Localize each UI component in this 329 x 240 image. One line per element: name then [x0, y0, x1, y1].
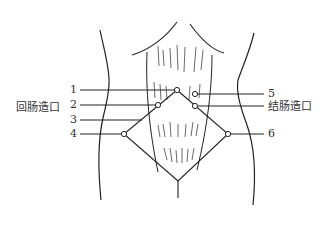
marker-label-1: 1	[70, 84, 77, 95]
marker-label-3: 3	[70, 114, 77, 125]
marker-point-4	[121, 131, 126, 136]
stoma-diamond	[124, 90, 228, 181]
torso-right-outline	[237, 33, 254, 205]
marker-point-5	[192, 91, 197, 96]
ileostomy-label: 回肠造口	[16, 102, 60, 113]
rectus-left-line	[147, 52, 158, 172]
marker-label-6: 6	[268, 128, 275, 139]
marker-point-2	[155, 102, 160, 107]
marker-label-2: 2	[70, 99, 77, 110]
marker-point-colostomy	[192, 103, 197, 108]
marker-point-1	[174, 87, 179, 92]
torso-left-outline	[99, 30, 109, 200]
marker-label-5: 5	[268, 88, 275, 99]
marker-point-6	[225, 131, 230, 136]
rib-cage-arch	[132, 22, 224, 55]
rectus-right-line	[197, 55, 212, 170]
colostomy-label: 结肠造口	[268, 101, 312, 112]
marker-label-4: 4	[70, 128, 77, 139]
